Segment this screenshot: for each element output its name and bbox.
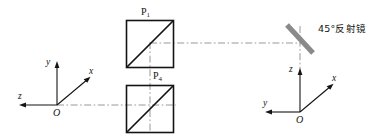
axis-right-horizontal-arrowhead (265, 110, 272, 115)
axis-right-origin-label: O (296, 115, 303, 125)
prism-p1-label: P1 (141, 7, 150, 19)
axis-right-diagonal-line (300, 86, 331, 112)
axis-right-z-label: z (289, 65, 293, 75)
axis-right-x-label: x (332, 74, 336, 84)
axes-right-group (268, 71, 331, 112)
prism-p4-label-sub: 4 (159, 75, 163, 83)
axis-right-vertical-arrowhead (298, 68, 303, 75)
prism-p1-label-sub: 1 (147, 11, 151, 19)
axis-left-x-label: x (89, 67, 93, 77)
axis-left-z-label: z (18, 92, 22, 102)
axes-left-group (22, 64, 88, 105)
axis-left-vertical-arrowhead (55, 61, 60, 68)
diagram-vector-layer (0, 0, 370, 139)
axis-right-y-label: y (263, 99, 267, 109)
axis-left-origin-label: O (53, 108, 60, 118)
mirror-45deg-label: 45°反射镜 (318, 24, 366, 34)
optical-diagram-canvas: P1 P4 45°反射镜 y x z O z x y O (0, 0, 370, 139)
axes-left-arrowheads (19, 61, 91, 107)
axis-left-diagonal-line (57, 79, 88, 105)
axis-left-y-label: y (46, 58, 50, 68)
axis-left-horizontal-arrowhead (19, 103, 26, 108)
axes-right-arrowheads (265, 68, 334, 114)
prism-p4-label: P4 (153, 71, 162, 83)
